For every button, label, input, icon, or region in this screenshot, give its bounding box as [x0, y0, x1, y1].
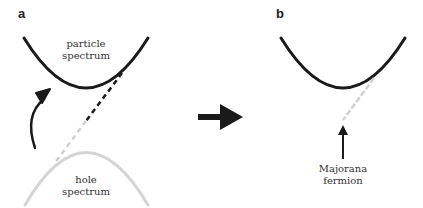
dashed-line-dark	[86, 73, 122, 121]
majorana-diagram: a b particle spectrum hole spectrum Majo…	[0, 0, 423, 208]
particle-label-line2: spectrum	[41, 50, 131, 62]
panel-a-label: a	[18, 6, 25, 21]
majorana-pointer-head-icon	[338, 125, 348, 135]
curved-arrow-icon	[31, 99, 44, 148]
majorana-label-line2: fermion	[298, 175, 388, 187]
hole-spectrum-label: hole spectrum	[41, 174, 131, 198]
particle-label-line1: particle	[41, 38, 131, 50]
hole-label-line1: hole	[41, 174, 131, 186]
majorana-label-line1: Majorana	[298, 163, 388, 175]
b-spectrum-curve	[281, 38, 405, 88]
hole-label-line2: spectrum	[41, 186, 131, 198]
majorana-fermion-label: Majorana fermion	[298, 163, 388, 187]
transition-arrow-shaft	[198, 114, 222, 120]
curved-arrow-head-icon	[36, 89, 50, 103]
transition-arrow-head-icon	[220, 104, 243, 130]
panel-b-label: b	[276, 6, 284, 21]
particle-spectrum-label: particle spectrum	[41, 38, 131, 62]
